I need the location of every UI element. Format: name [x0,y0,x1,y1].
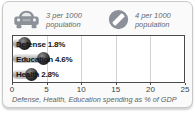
bar-label: Health 2.8% [16,70,59,79]
bar-chart: Defense 1.8%Education 4.6%Health 2.8% 05… [12,35,185,104]
x-axis: 0510152025 [12,83,185,94]
chart-plot: Defense 1.8%Education 4.6%Health 2.8% [12,35,185,83]
x-tick-mark [12,83,13,85]
legend-label: 3 per 1000 population [46,11,82,29]
legend-item-telephones: 4 per 1000 population [108,9,171,30]
bar-label: Education 4.6% [16,54,72,63]
bar-row-health: Health 2.8% [13,68,184,81]
legend-item-cars: 3 per 1000 population [13,9,82,30]
x-tick-mark [185,83,186,85]
x-tick-mark [81,83,82,85]
x-tick-mark [116,83,117,85]
bar-label: Defense 1.8% [16,39,65,48]
legend-label: 4 per 1000 population [135,11,171,29]
bar-row-education: Education 4.6% [13,52,184,65]
legend: 3 per 1000 population 4 per 1000 populat… [3,2,192,30]
x-tick-label: 15 [111,85,120,94]
bar-row-defense: Defense 1.8% [13,37,184,50]
country-stats-card: 3 per 1000 population 4 per 1000 populat… [2,1,193,108]
x-tick-label: 10 [77,85,86,94]
car-icon [13,9,40,30]
x-tick-label: 5 [44,85,48,94]
x-tick-mark [47,83,48,85]
telephone-icon [108,9,129,30]
chart-caption: Defense, Health, Education spending as %… [12,95,185,104]
x-tick-label: 25 [181,85,190,94]
x-tick-mark [150,83,151,85]
x-tick-label: 20 [146,85,155,94]
x-tick-label: 0 [10,85,14,94]
